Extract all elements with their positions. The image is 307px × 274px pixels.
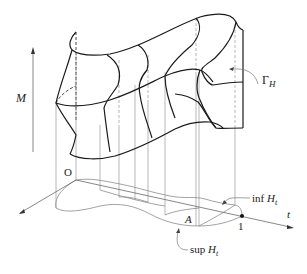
base-projection — [56, 179, 242, 226]
unit-tick-label: 1 — [238, 220, 244, 232]
gamma-label: ΓH — [262, 73, 276, 89]
t-axis-arrowhead — [287, 225, 294, 229]
m-axis-arrowhead — [31, 47, 35, 54]
m-axis-label: M — [15, 91, 27, 105]
unit-point — [240, 214, 244, 218]
region-a-label: A — [184, 213, 192, 225]
t-axis-left-arrowhead — [19, 209, 25, 214]
t-axis-label: t — [287, 208, 291, 220]
m-axis — [31, 47, 35, 152]
inf-h-label: inf Ht — [252, 192, 278, 207]
sup-leader-arrow — [176, 228, 180, 233]
sup-leader-line — [177, 232, 188, 250]
gamma-leader-arrow — [229, 67, 234, 71]
surface-gamma-h — [56, 14, 243, 159]
sup-h-label: sup Ht — [190, 243, 219, 258]
origin-label: O — [64, 166, 72, 178]
surface-diagram: M — [0, 0, 307, 274]
inf-leader-line — [224, 198, 250, 203]
t-axis-left-line — [20, 180, 76, 213]
